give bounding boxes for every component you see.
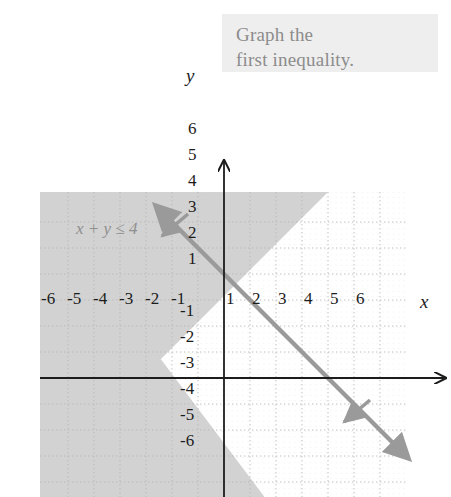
y-tick--1: -1 <box>180 302 194 319</box>
x-tick-3: 3 <box>278 290 287 307</box>
x-tick--4: -4 <box>93 290 107 307</box>
x-axis-label: x <box>420 292 428 311</box>
y-tick-1: 1 <box>188 250 197 267</box>
instruction-callout: Graph the first inequality. <box>222 14 438 72</box>
x-tick-6: 6 <box>356 290 365 307</box>
y-axis-label: y <box>186 66 194 85</box>
callout-line-2: first inequality. <box>236 47 438 72</box>
y-tick-5: 5 <box>188 146 197 163</box>
x-tick-4: 4 <box>304 290 313 307</box>
y-tick--6: -6 <box>180 432 194 449</box>
coordinate-plane: -6 -5 -4 -3 -2 -1 1 2 3 4 5 6 6 5 4 3 2 … <box>20 96 388 470</box>
x-tick-5: 5 <box>330 290 339 307</box>
y-tick-4: 4 <box>188 172 197 189</box>
y-tick--2: -2 <box>180 328 194 345</box>
callout-line-1: Graph the <box>236 22 438 47</box>
x-tick--6: -6 <box>41 290 55 307</box>
y-tick--3: -3 <box>180 354 194 371</box>
y-tick-3: 3 <box>188 198 197 215</box>
x-tick-2: 2 <box>252 290 261 307</box>
x-tick--2: -2 <box>145 290 159 307</box>
y-tick--4: -4 <box>180 380 194 397</box>
x-tick-1: 1 <box>226 290 235 307</box>
graph-svg <box>20 96 451 497</box>
x-tick--5: -5 <box>67 290 81 307</box>
y-tick-2: 2 <box>188 224 197 241</box>
x-tick--3: -3 <box>119 290 133 307</box>
y-tick--5: -5 <box>180 406 194 423</box>
y-tick-6: 6 <box>188 120 197 137</box>
inequality-annotation: x + y ≤ 4 <box>76 220 137 237</box>
